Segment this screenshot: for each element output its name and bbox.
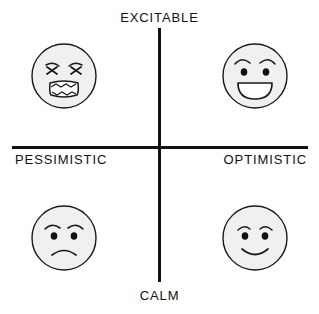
axis-label-calm: CALM	[140, 289, 180, 302]
axis-label-excitable: EXCITABLE	[120, 11, 199, 24]
vertical-axis-line	[158, 28, 161, 282]
quadrant-bottom-left-face	[30, 204, 98, 272]
quadrant-bottom-right-face	[221, 204, 289, 272]
emotion-quadrant-diagram: EXCITABLE CALM PESSIMISTIC OPTIMISTIC	[0, 0, 319, 314]
sad-face-icon	[30, 204, 98, 272]
axis-label-pessimistic: PESSIMISTIC	[15, 153, 107, 166]
angry-face-icon	[30, 42, 98, 110]
happy-face-icon	[221, 42, 289, 110]
axis-label-optimistic: OPTIMISTIC	[224, 153, 307, 166]
quadrant-top-right-face	[221, 42, 289, 110]
content-face-icon	[221, 204, 289, 272]
quadrant-top-left-face	[30, 42, 98, 110]
